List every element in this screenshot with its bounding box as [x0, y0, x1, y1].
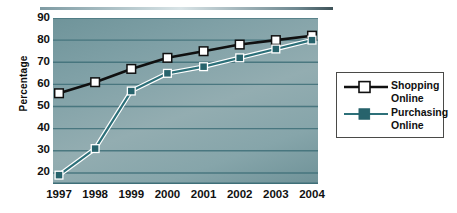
legend-symbol-shopping-online [343, 80, 389, 94]
y-axis-tick-labels: 9080706050403020 [18, 0, 50, 213]
series-line-halo [59, 40, 312, 175]
header-rule [40, 7, 333, 10]
data-point-marker [55, 88, 64, 97]
data-point-marker [272, 35, 281, 44]
data-point-marker [164, 69, 172, 77]
data-point-marker [163, 53, 172, 62]
data-point-marker [200, 62, 208, 70]
legend-item-shopping-online: Shopping Online [343, 79, 439, 104]
data-point-marker [91, 77, 100, 86]
data-point-marker [272, 45, 280, 53]
x-axis-tick-labels: 19971998199920002001200220032004 [53, 188, 318, 210]
data-point-marker [199, 46, 208, 55]
data-point-marker [127, 87, 135, 95]
y-tick-label: 40 [22, 122, 50, 134]
plot-svg [53, 18, 318, 184]
x-tick-label: 2004 [289, 188, 335, 200]
legend-label-purchasing-online: Purchasing Online [391, 106, 448, 131]
y-tick-label: 90 [22, 12, 50, 24]
legend-label-shopping-online: Shopping Online [391, 79, 439, 104]
y-tick-label: 20 [22, 166, 50, 178]
y-tick-label: 30 [22, 144, 50, 156]
plot-area [53, 18, 318, 184]
legend-symbol-purchasing-online [343, 107, 389, 121]
data-point-marker [308, 36, 316, 44]
data-point-marker [235, 40, 244, 49]
data-point-marker [236, 53, 244, 61]
y-tick-label: 70 [22, 56, 50, 68]
chart-legend: Shopping Online Purchasing Online [336, 72, 444, 138]
data-point-marker [55, 171, 63, 179]
chart-figure: Percentage 9080706050403020 199719981999… [0, 0, 457, 213]
y-tick-label: 50 [22, 100, 50, 112]
data-point-marker [127, 64, 136, 73]
y-tick-label: 60 [22, 78, 50, 90]
data-point-marker [91, 144, 99, 152]
series-line [59, 40, 312, 175]
y-tick-label: 80 [22, 34, 50, 46]
legend-item-purchasing-online: Purchasing Online [343, 106, 448, 131]
